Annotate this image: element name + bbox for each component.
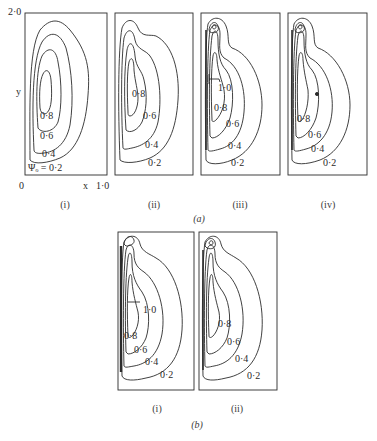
- panel-label-a-iii: (iii): [233, 199, 248, 210]
- contour-label: 0·2: [160, 369, 173, 380]
- panel-a-i: [25, 13, 107, 175]
- contour-label: 0·8: [218, 318, 231, 329]
- contour-label: 0·8: [132, 88, 145, 99]
- streamline-figure: [0, 0, 377, 441]
- contour-label: 0·2: [148, 157, 161, 168]
- x-axis-origin-tick: 0: [19, 180, 24, 191]
- x-axis-label: x: [83, 180, 88, 191]
- y-axis-label: y: [16, 86, 21, 97]
- contour-label: 0·4: [235, 353, 248, 364]
- panel-a-ii: [115, 13, 193, 175]
- part-label-a: (a): [193, 213, 205, 224]
- contour-label: 0·2: [231, 157, 244, 168]
- panel-b-ii: [199, 232, 277, 390]
- contour-label: 1·0: [218, 82, 231, 93]
- contour-label: 1·0: [143, 304, 156, 315]
- contour-label: 0·8: [124, 330, 137, 341]
- contour-label: 0·8: [40, 110, 53, 121]
- contour-label: 0·6: [308, 129, 321, 140]
- panel-label-a-iv: (iv): [321, 199, 335, 210]
- contour-label: 0·4: [311, 143, 324, 154]
- contour-label: 0·8: [214, 102, 227, 113]
- contour-label: 0·6: [227, 336, 240, 347]
- contour-label: 0·4: [228, 140, 241, 151]
- contour-label: 0·2: [247, 370, 260, 381]
- contour-label: 0·6: [40, 130, 53, 141]
- x-axis-end-tick: 1·0: [96, 180, 109, 191]
- y-axis-top-tick: 2·0: [8, 6, 21, 17]
- panel-a-iv: [288, 13, 367, 175]
- contour-label: 0·2: [323, 157, 336, 168]
- contour-label: 0·6: [143, 110, 156, 121]
- contour-label: 0·4: [145, 356, 158, 367]
- panel-label-a-ii: (ii): [148, 199, 160, 210]
- panel-label-a-i: (i): [60, 199, 69, 210]
- part-label-b: (b): [191, 419, 203, 430]
- contour-label-psi: Ψₒ = 0·2: [28, 162, 62, 173]
- contour-label: 0·4: [145, 139, 158, 150]
- contour-label: 0·8: [297, 113, 310, 124]
- contour-label: 0·6: [134, 344, 147, 355]
- contour-label: 0·4: [42, 148, 55, 159]
- figure-caption: [0, 432, 377, 441]
- panel-label-b-i: (i): [152, 403, 161, 414]
- panel-label-b-ii: (ii): [231, 403, 243, 414]
- contour-label: 0·6: [226, 118, 239, 129]
